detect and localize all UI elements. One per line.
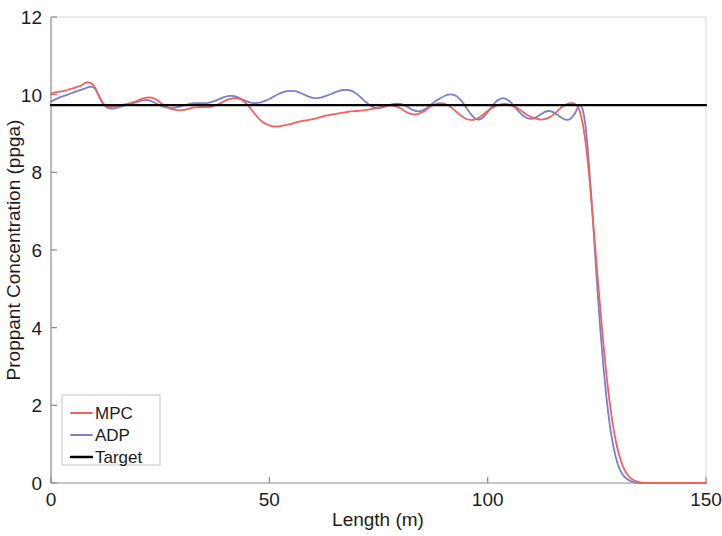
y-tick-label: 6: [31, 240, 42, 261]
proppant-concentration-line-chart: 024681012 050100150 Length (m) Proppant …: [0, 0, 722, 536]
legend-label-target: Target: [95, 448, 143, 467]
legend-label-adp: ADP: [95, 426, 130, 445]
y-axis-title: Proppant Concentration (ppga): [3, 120, 24, 381]
y-tick-label: 2: [31, 395, 42, 416]
y-tick-label: 12: [21, 7, 42, 28]
x-tick-label: 150: [690, 489, 722, 510]
x-tick-label: 0: [46, 489, 57, 510]
y-tick-label: 4: [31, 318, 42, 339]
y-tick-label: 10: [21, 85, 42, 106]
chart-figure: 024681012 050100150 Length (m) Proppant …: [0, 0, 722, 536]
y-tick-label: 0: [31, 473, 42, 494]
x-axis-title: Length (m): [332, 509, 424, 530]
x-tick-label: 100: [472, 489, 504, 510]
x-tick-label: 50: [259, 489, 280, 510]
y-tick-label: 8: [31, 162, 42, 183]
legend-label-mpc: MPC: [95, 404, 133, 423]
chart-legend: MPCADPTarget: [62, 395, 160, 467]
